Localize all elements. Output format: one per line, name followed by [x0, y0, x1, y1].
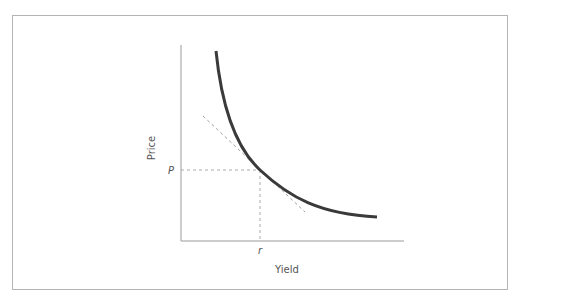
x-axis-label: Yield — [274, 264, 299, 275]
price-yield-curve — [216, 51, 377, 217]
y-axis-label: Price — [146, 136, 157, 160]
y-marker-label: P — [168, 165, 175, 176]
price-yield-diagram: P r Yield Price — [0, 0, 562, 305]
x-marker-label: r — [258, 245, 263, 256]
